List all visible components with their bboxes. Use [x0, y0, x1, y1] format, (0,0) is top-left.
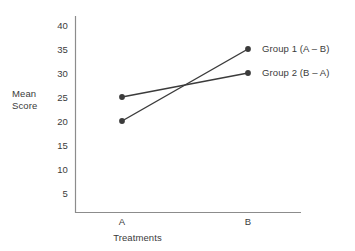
data-point-group-1-a	[119, 118, 125, 124]
plot-area	[0, 0, 355, 251]
data-point-group-2-a	[119, 94, 125, 100]
x-tick-label-a: A	[110, 216, 134, 227]
x-axis-title: Treatments	[0, 232, 315, 244]
interaction-plot: Mean Score 40 35 30 25 20 15 10 5 Group …	[0, 0, 355, 251]
series-label-group-2: Group 2 (B – A)	[262, 67, 330, 78]
data-point-group-2-b	[245, 70, 251, 76]
x-tick-label-b: B	[236, 216, 260, 227]
series-line-group-2	[122, 73, 248, 97]
data-point-group-1-b	[245, 46, 251, 52]
series-label-group-1: Group 1 (A – B)	[262, 43, 330, 54]
